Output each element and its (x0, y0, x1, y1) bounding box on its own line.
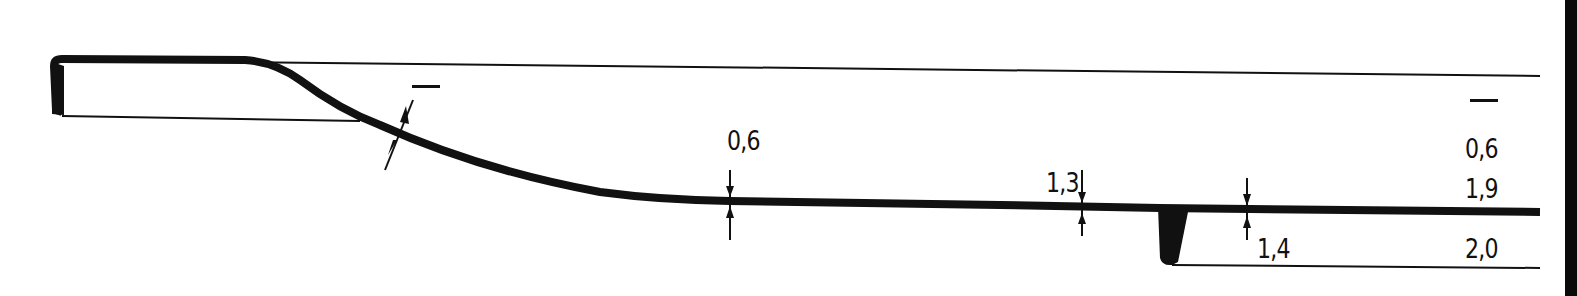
rib (1158, 207, 1188, 265)
column-mid-label: 1,9 (1465, 176, 1498, 202)
rib-base-line (1172, 265, 1540, 268)
column-bottom-label: 2,0 (1465, 236, 1498, 262)
arrow-down-icon (1078, 192, 1086, 203)
profile-drawing (0, 0, 1577, 296)
column-top-label: 0,6 (1465, 136, 1498, 162)
right-thickness-label: 1,3 (1046, 170, 1079, 196)
main-profile (54, 59, 1540, 212)
arrow-up-icon (1243, 216, 1251, 228)
arrow-down-icon (726, 186, 734, 197)
arrow-up-icon (726, 206, 734, 218)
rib-thickness-label: 1,4 (1257, 236, 1290, 262)
left-vertical-lip (52, 62, 64, 115)
arrow-up-icon (1078, 213, 1086, 224)
scan-edge (1565, 0, 1577, 296)
column-dash-mark (1470, 99, 1498, 102)
slope-dash-mark (412, 85, 440, 88)
mid-thickness-label: 0,6 (727, 128, 760, 154)
arrow-down-icon (1243, 194, 1251, 206)
lower-reference-line (62, 116, 360, 121)
top-reference-line (240, 62, 1540, 76)
